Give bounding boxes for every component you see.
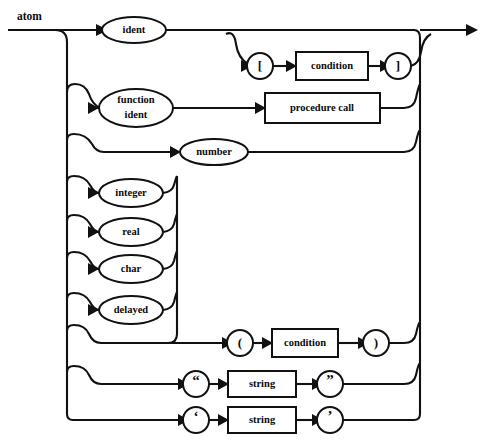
function-ident-label-line1: function <box>117 94 155 105</box>
node-bracket-close[interactable]: ] <box>385 53 411 79</box>
condition-2-label: condition <box>284 337 326 348</box>
procedure-call-label: procedure call <box>290 102 354 113</box>
track-number-merge <box>248 130 420 152</box>
string-2-label: string <box>249 414 276 425</box>
paren-open-label: ( <box>238 335 242 350</box>
single-quote-close-label: ’ <box>328 408 333 424</box>
track-type-merge-rail <box>168 176 177 343</box>
arrow-exit <box>466 24 478 36</box>
node-string-double[interactable]: string <box>228 371 296 397</box>
track-dquote-merge <box>343 363 420 384</box>
node-single-quote-open[interactable]: ‘ <box>183 407 209 433</box>
node-integer[interactable]: integer <box>99 179 163 207</box>
node-function-ident[interactable]: function ident <box>99 89 173 127</box>
track-branch-dquote <box>67 366 184 384</box>
node-condition-index[interactable]: condition <box>296 52 368 80</box>
node-paren-close[interactable]: ) <box>363 330 389 356</box>
number-label: number <box>196 146 232 157</box>
track-paren-merge <box>389 322 420 343</box>
node-bracket-open[interactable]: [ <box>247 53 273 79</box>
node-double-quote-open[interactable]: “ <box>183 371 209 397</box>
delayed-label: delayed <box>114 304 149 315</box>
track-branch-delayed <box>67 293 100 310</box>
node-ident[interactable]: ident <box>102 17 166 43</box>
bracket-open-label: [ <box>258 58 262 73</box>
track-real-merge <box>163 214 177 232</box>
railroad-diagram-svg: atom <box>0 0 483 446</box>
node-paren-open[interactable]: ( <box>227 330 253 356</box>
condition-1-label: condition <box>311 60 353 71</box>
diagram-title: atom <box>17 10 42 22</box>
track-branch-function <box>67 84 100 108</box>
double-quote-open-label: “ <box>192 372 200 388</box>
double-quote-close-label: ” <box>326 372 334 388</box>
node-real[interactable]: real <box>99 218 163 246</box>
track-branch-real <box>67 215 100 232</box>
track-delayed-merge <box>163 292 177 310</box>
track-integer-merge <box>163 176 177 193</box>
track-procedure-merge <box>380 84 420 108</box>
railroad-diagram-canvas: atom <box>0 0 483 446</box>
char-label: char <box>121 263 142 274</box>
node-condition-paren[interactable]: condition <box>272 329 338 357</box>
function-ident-label-line2: ident <box>125 109 148 120</box>
track-group <box>8 24 478 426</box>
node-string-single[interactable]: string <box>228 407 296 433</box>
track-left-rail <box>55 30 73 420</box>
node-procedure-call[interactable]: procedure call <box>265 93 380 123</box>
integer-label: integer <box>115 187 147 198</box>
track-char-merge <box>163 251 177 269</box>
node-char[interactable]: char <box>99 255 163 283</box>
single-quote-open-label: ‘ <box>194 408 199 424</box>
track-branch-integer <box>67 176 100 193</box>
track-branch-char <box>67 252 100 269</box>
node-double-quote-close[interactable]: ” <box>317 371 343 397</box>
track-index-drop <box>226 33 248 66</box>
track-branch-number <box>67 134 175 152</box>
ident-label: ident <box>123 24 146 35</box>
node-number[interactable]: number <box>180 139 248 165</box>
bracket-close-label: ] <box>396 58 400 73</box>
track-branch-paren <box>67 325 228 343</box>
string-1-label: string <box>249 378 276 389</box>
paren-close-label: ) <box>374 335 378 350</box>
real-label: real <box>122 226 139 237</box>
node-delayed[interactable]: delayed <box>99 296 163 324</box>
node-single-quote-close[interactable]: ’ <box>317 407 343 433</box>
